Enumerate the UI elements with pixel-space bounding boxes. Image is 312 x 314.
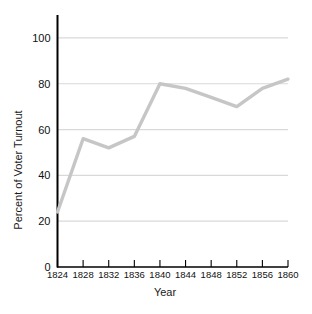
y-tick-label: 40	[38, 169, 50, 181]
x-tick-label: 1836	[124, 269, 145, 280]
x-tick-label: 1856	[252, 269, 273, 280]
x-tick-label: 1828	[73, 269, 94, 280]
x-tick-label: 1824	[47, 269, 68, 280]
x-tick-label: 1860	[277, 269, 298, 280]
chart-container: 020406080100 182418281832183618401844184…	[0, 0, 312, 314]
y-tick-label: 60	[38, 124, 50, 136]
x-tick-label: 1852	[226, 269, 247, 280]
x-tick-label: 1840	[149, 269, 170, 280]
y-tick-label: 20	[38, 215, 50, 227]
y-tick-label: 100	[32, 32, 50, 44]
x-tick-label: 1844	[175, 269, 196, 280]
x-tick-label: 1832	[98, 269, 119, 280]
y-axis-title: Percent of Voter Turnout	[12, 110, 24, 229]
x-tick-label: 1848	[201, 269, 222, 280]
y-tick-label: 80	[38, 78, 50, 90]
x-axis-title: Year	[154, 286, 177, 298]
voter-turnout-line-chart: 020406080100 182418281832183618401844184…	[0, 0, 312, 314]
